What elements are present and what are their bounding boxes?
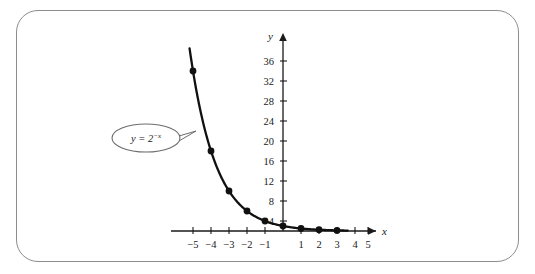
x-tick-label: 1: [298, 239, 303, 250]
x-tick-label: 3: [334, 239, 339, 250]
data-point: [226, 188, 233, 195]
x-tick-label: 2: [316, 239, 321, 250]
y-tick-label: 32: [264, 76, 275, 87]
x-tick-label: −3: [223, 239, 234, 250]
data-point: [280, 223, 287, 230]
y-axis-tick-labels: 4 8 12 16 20 24 28 32 36: [264, 56, 275, 227]
y-tick-label: 20: [264, 136, 275, 147]
x-tick-label: −4: [205, 239, 217, 250]
data-point: [298, 225, 305, 232]
y-tick-label: 16: [264, 156, 275, 167]
y-tick-label: 28: [264, 96, 275, 107]
data-point: [262, 218, 269, 225]
callout-base: y = 2: [130, 133, 154, 144]
x-tick-label: 5: [365, 239, 370, 250]
data-point: [190, 68, 197, 75]
y-tick-label: 8: [269, 196, 274, 207]
data-points-group: [190, 68, 341, 234]
y-axis-arrow: [279, 33, 287, 41]
y-tick-label: 36: [264, 56, 275, 67]
y-tick-label: 24: [264, 116, 275, 127]
x-axis-label: x: [381, 225, 387, 237]
x-tick-label: −2: [241, 239, 252, 250]
data-point: [244, 208, 251, 215]
x-tick-label: −5: [187, 239, 198, 250]
graph-plot: x y −5 −4 −3 −2 −1 1 2 3 4 5: [0, 0, 535, 274]
callout-exponent: −x: [153, 132, 162, 140]
callout-leader-line: [179, 131, 196, 141]
y-tick-label: 12: [264, 176, 275, 187]
figure-container: x y −5 −4 −3 −2 −1 1 2 3 4 5: [0, 0, 535, 274]
x-axis-tick-labels: −5 −4 −3 −2 −1 1 2 3 4 5: [187, 239, 370, 250]
data-point: [316, 226, 323, 233]
y-axis-label: y: [267, 30, 273, 42]
data-point: [208, 148, 215, 155]
data-point: [334, 227, 341, 234]
x-tick-label: 4: [352, 239, 358, 250]
x-tick-label: −1: [259, 239, 270, 250]
x-axis-arrow: [368, 227, 376, 235]
